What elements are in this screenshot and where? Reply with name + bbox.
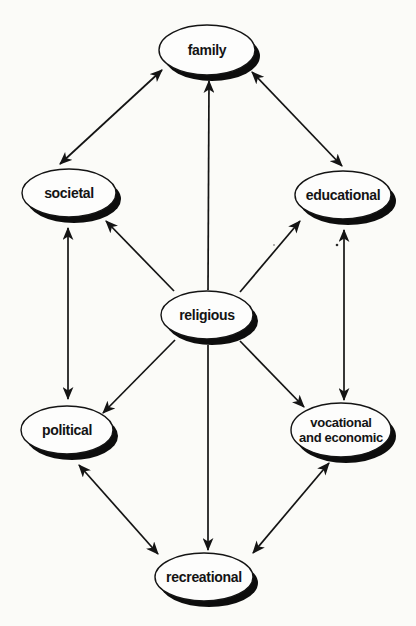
node-societal-label: societal [44, 185, 94, 201]
node-educational-label: educational [306, 187, 381, 203]
edge-religious-political [103, 340, 175, 413]
edge-religious-vocational [240, 341, 304, 407]
node-recreational: recreational [155, 553, 258, 607]
edge-political-recreational [79, 465, 158, 554]
edge-religious-family [208, 81, 209, 290]
edge-societal-family [60, 70, 162, 164]
node-vocational-economic-label-line1: vocational [310, 415, 371, 430]
print-speck [273, 244, 275, 246]
node-educational: educational [295, 171, 396, 225]
node-recreational-label: recreational [166, 569, 242, 585]
node-vocational-economic-label-line2: and economic [299, 430, 383, 445]
edge-religious-educational [240, 221, 300, 292]
edge-family-educational [252, 72, 342, 166]
node-religious-label: religious [179, 307, 235, 323]
edge-vocational-recreational [253, 463, 329, 553]
diagram-page: family societal educational religious po… [0, 0, 416, 626]
edge-religious-societal [106, 221, 174, 291]
node-political: political [21, 406, 118, 460]
node-religious: religious [161, 291, 258, 345]
node-political-label: political [42, 422, 92, 438]
node-family: family [159, 25, 260, 81]
node-societal: societal [22, 169, 121, 223]
node-vocational-economic: vocational and economic [291, 403, 396, 463]
print-speck [336, 244, 339, 247]
node-family-label: family [188, 42, 227, 58]
diagram-canvas: family societal educational religious po… [0, 0, 416, 626]
